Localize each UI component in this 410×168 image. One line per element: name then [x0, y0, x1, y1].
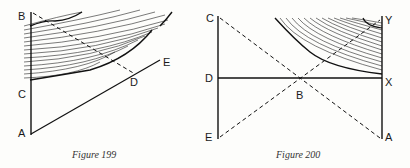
- label-E: E: [163, 56, 170, 68]
- label-D: D: [205, 72, 213, 84]
- label-Y: Y: [385, 14, 393, 26]
- label-A: A: [18, 127, 26, 139]
- label-C: C: [18, 88, 26, 100]
- figure-199: B C A D E Figure 199: [18, 10, 172, 160]
- label-A: A: [385, 131, 393, 143]
- line-AE: [31, 60, 160, 134]
- figure-caption: Figure 199: [71, 149, 116, 160]
- label-C: C: [206, 12, 214, 24]
- label-B: B: [18, 10, 25, 22]
- figures-canvas: B C A D E Figure 199 C D: [0, 0, 410, 168]
- label-X: X: [385, 76, 393, 88]
- hatched-region: [280, 18, 382, 70]
- label-B: B: [296, 89, 303, 101]
- figure-caption: Figure 200: [275, 149, 320, 160]
- hatch-corner-boundary: [363, 18, 382, 28]
- figure-200: C D E B Y X A Figure 200: [205, 12, 393, 160]
- hatch-lower-boundary: [30, 12, 172, 80]
- label-E: E: [205, 131, 212, 143]
- label-D: D: [130, 76, 138, 88]
